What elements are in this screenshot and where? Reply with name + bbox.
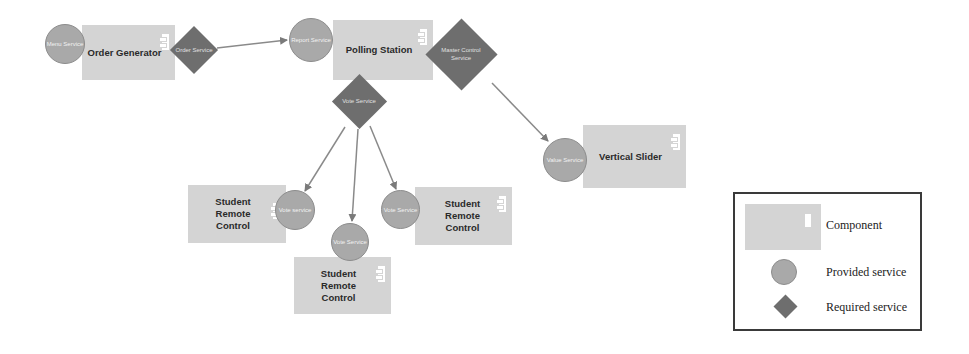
service-label: Order Service [175,46,212,54]
component-icon [378,266,385,282]
legend-required-swatch [773,294,797,318]
service-label: Menu Service [47,40,84,48]
legend-provided-swatch [771,259,797,285]
provided-service-vote-src3[interactable]: Vote Service [381,190,420,229]
service-label: Vote service [279,206,312,214]
service-label: Master Control Service [438,46,484,62]
legend-component-label: Component [826,218,882,233]
component-student-remote-control-3[interactable]: Student Remote Control [415,187,512,245]
component-student-remote-control-1[interactable]: Student Remote Control [188,185,286,243]
service-label: Vote Service [384,206,418,214]
provided-service-vote-src1[interactable]: Vote service [275,190,315,230]
required-service-order[interactable]: Order Service [170,26,218,74]
legend: Component Provided service Required serv… [733,192,922,331]
provided-service-report[interactable]: Report Service [289,18,333,62]
component-icon [805,214,811,227]
legend-required-label: Required service [826,300,907,315]
provided-service-vote-src2[interactable]: Vote Service [331,223,369,261]
component-label: Student Remote Control [422,198,506,234]
component-vertical-slider[interactable]: Vertical Slider [583,125,686,188]
component-label: Polling Station [346,44,421,56]
component-icon [499,196,506,212]
component-diagram: Order Generator Menu Service Order Servi… [0,0,969,354]
component-order-generator[interactable]: Order Generator [82,25,175,80]
required-service-master-control[interactable]: Master Control Service [425,18,497,90]
service-label: Value Service [547,156,584,164]
legend-component-swatch [745,204,821,250]
component-label: Vertical Slider [599,151,670,163]
component-label: Student Remote Control [304,268,382,304]
connector-vote-to-src3 [370,126,396,189]
required-service-vote[interactable]: Vote Service [331,73,387,129]
component-icon [162,34,169,50]
connector-vote-to-src2 [352,129,358,221]
component-label: Order Generator [88,47,170,59]
connector-master-to-value [492,83,548,141]
service-label: Vote Service [333,238,367,246]
service-label: Vote Service [342,97,376,105]
component-label: Student Remote Control [198,196,276,232]
connector-vote-to-src1 [305,127,345,191]
provided-service-menu[interactable]: Menu Service [45,24,85,64]
component-icon [673,134,680,150]
legend-provided-label: Provided service [826,265,906,280]
service-label: Report Service [291,36,331,44]
component-polling-station[interactable]: Polling Station [333,20,433,80]
connector-order-to-report [217,40,287,48]
component-student-remote-control-2[interactable]: Student Remote Control [294,257,391,314]
provided-service-value[interactable]: Value Service [543,138,587,182]
